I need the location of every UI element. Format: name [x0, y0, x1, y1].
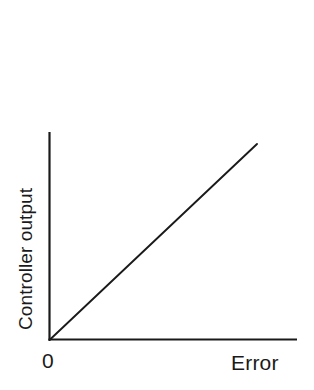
y-axis-label: Controller output [16, 140, 40, 330]
figure-proportional-controller: Controller output Error 0 [0, 0, 314, 390]
series-line-proportional-response [50, 144, 258, 340]
origin-tick-label: 0 [42, 350, 54, 371]
x-axis-label: Error [231, 352, 279, 373]
plot-area [0, 0, 314, 390]
